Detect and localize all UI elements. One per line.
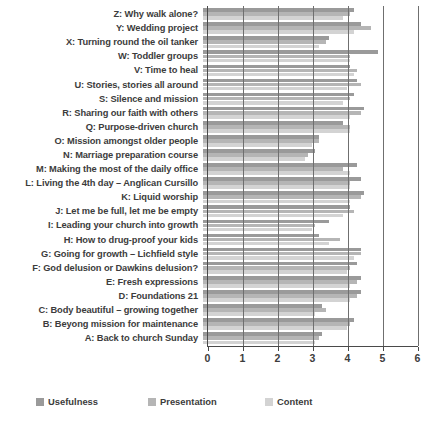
bar-usefulness [203,8,354,12]
category-label: Q: Purpose-driven church [0,122,203,132]
bar-group [203,106,427,120]
category-label: L: Living the 4th day – Anglican Cursill… [0,178,203,188]
chart-legend: UsefulnessPresentationContent [0,396,427,412]
bar-presentation [203,252,361,256]
category-label: D: Foundations 21 [0,291,203,301]
bar-content [203,228,312,232]
bar-group [203,176,427,190]
chart-category-row: J: Let me be full, let me be empty [0,204,427,218]
bar-group [203,247,427,261]
bar-group [203,289,427,303]
chart-category-row: Q: Purpose-driven church [0,120,427,134]
category-label: U: Stories, stories all around [0,80,203,90]
x-axis-tick [243,347,244,351]
chart-category-row: C: Body beautiful – growing together [0,303,427,317]
chart-category-row: B: Beyong mission for maintenance [0,317,427,331]
x-axis-tick [348,347,349,351]
chart-category-row: R: Sharing our faith with others [0,106,427,120]
bar-content [203,87,347,91]
bar-usefulness [203,107,364,111]
bar-presentation [203,238,340,242]
x-axis-tick [278,347,279,351]
bar-group [203,275,427,289]
bar-content [203,129,350,133]
category-label: M: Making the most of the daily office [0,164,203,174]
x-axis-tick-label: 1 [240,352,246,364]
chart-category-row: V: Time to heal [0,63,427,77]
bar-group [203,331,427,345]
bar-presentation [203,181,350,185]
bar-presentation [203,280,357,284]
category-label: K: Liquid worship [0,192,203,202]
bar-group [203,204,427,218]
bar-usefulness [203,262,357,266]
category-label: F: God delusion or Dawkins delusion? [0,263,203,273]
bar-group [203,303,427,317]
bar-group [203,261,427,275]
bar-content [203,59,350,63]
chart-category-row: E: Fresh expressions [0,275,427,289]
bar-presentation [203,69,357,73]
x-axis: 0123456 [0,347,427,369]
bar-group [203,148,427,162]
bar-presentation [203,111,361,115]
x-axis-tick-label: 5 [380,352,386,364]
chart-category-row: O: Mission amongst older people [0,134,427,148]
bar-presentation [203,195,361,199]
bar-content [203,73,354,77]
chart-category-row: H: How to drug-proof your kids [0,233,427,247]
bar-usefulness [203,234,319,238]
legend-item-content[interactable]: Content [265,396,312,407]
legend-label: Presentation [160,396,217,407]
bar-content [203,200,350,204]
bar-content [203,312,315,316]
legend-item-usefulness[interactable]: Usefulness [36,396,98,407]
bar-presentation [203,40,326,44]
category-label: B: Beyong mission for maintenance [0,319,203,329]
legend-swatch-icon [265,398,273,406]
bar-usefulness [203,205,350,209]
bar-group [203,49,427,63]
x-axis-tick-label: 3 [310,352,316,364]
bar-content [203,256,354,260]
category-label: J: Let me be full, let me be empty [0,206,203,216]
bar-content [203,326,347,330]
legend-label: Content [277,396,312,407]
x-axis-tick-label: 2 [275,352,281,364]
x-axis-tick-label: 0 [205,352,211,364]
legend-item-presentation[interactable]: Presentation [148,396,217,407]
chart-category-row: F: God delusion or Dawkins delusion? [0,261,427,275]
chart-category-row: D: Foundations 21 [0,289,427,303]
bar-group [203,233,427,247]
bar-presentation [203,210,354,214]
chart-category-row: A: Back to church Sunday [0,331,427,345]
bar-content [203,157,305,161]
bar-group [203,162,427,176]
bar-presentation [203,139,319,143]
bar-group [203,317,427,331]
category-label: H: How to drug-proof your kids [0,235,203,245]
bar-presentation [203,224,315,228]
bar-presentation [203,97,350,101]
category-label: V: Time to heal [0,65,203,75]
x-axis-tick-label: 6 [415,352,421,364]
bar-group [203,120,427,134]
category-label: S: Silence and mission [0,94,203,104]
bar-group [203,35,427,49]
category-label: N: Marriage preparation course [0,150,203,160]
bar-usefulness [203,50,378,54]
bar-usefulness [203,318,354,322]
bar-usefulness [203,276,361,280]
bar-presentation [203,266,350,270]
legend-swatch-icon [36,398,44,406]
bar-usefulness [203,220,329,224]
bar-group [203,77,427,91]
category-label: Y: Wedding project [0,23,203,33]
bar-group [203,63,427,77]
plot-area: Z: Why walk alone?Y: Wedding projectX: T… [0,0,427,370]
bar-usefulness [203,163,357,167]
bar-usefulness [203,191,364,195]
bar-group [203,92,427,106]
bar-group [203,21,427,35]
bar-presentation [203,322,350,326]
